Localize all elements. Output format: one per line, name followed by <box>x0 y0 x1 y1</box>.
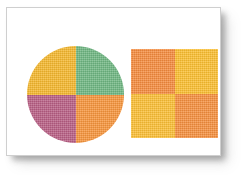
circle-quadrant-top-right <box>76 46 125 95</box>
checkerboard-square <box>131 49 218 138</box>
circle-quadrant-top-left-texture <box>27 46 76 95</box>
square-cell-top-right-texture <box>175 49 219 94</box>
circle-quadrant-bottom-left <box>27 95 76 144</box>
square-cell-top-right <box>175 49 219 94</box>
square-cell-top-left-texture <box>131 49 175 94</box>
square-cell-bottom-left-texture <box>131 94 175 139</box>
circle-quadrant-bottom-right-texture <box>76 95 125 144</box>
square-cell-bottom-right <box>175 94 219 139</box>
figure-root <box>0 0 248 175</box>
quadrant-circle <box>27 46 124 143</box>
circle-quadrant-top-right-texture <box>76 46 125 95</box>
circle-quadrant-bottom-left-texture <box>27 95 76 144</box>
circle-quadrant-top-left <box>27 46 76 95</box>
square-cell-top-left <box>131 49 175 94</box>
square-cell-bottom-right-texture <box>175 94 219 139</box>
circle-quadrant-bottom-right <box>76 95 125 144</box>
figure-card <box>6 7 221 156</box>
square-cell-bottom-left <box>131 94 175 139</box>
